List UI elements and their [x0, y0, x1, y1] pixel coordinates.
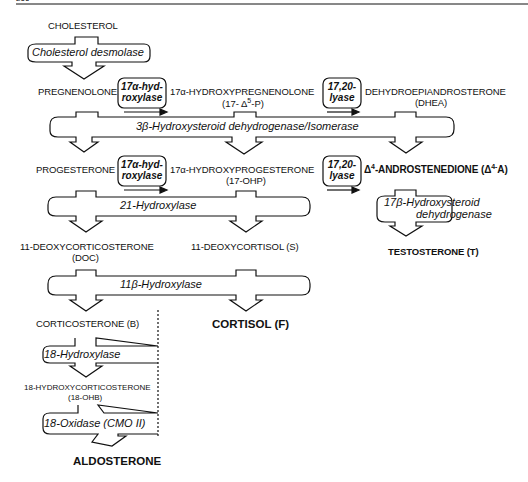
compound-corticosterone: CORTICOSTERONE (B): [36, 318, 139, 329]
enzyme-cholesterol-desmolase: Cholesterol desmolase: [32, 46, 144, 58]
compound-aldosterone: ALDOSTERONE: [73, 455, 161, 467]
compound-androstenedione: Δ4-ANDROSTENEDIONE (Δ4-A): [364, 163, 508, 175]
compound-17-hydroxypregnenolone: 17α-HYDROXYPREGNENOLONE: [170, 86, 314, 97]
enzyme-label: roxylase: [122, 92, 163, 103]
enzyme-21-hydroxylase: 21-Hydroxylase: [120, 199, 196, 211]
compound-17-ohp-abbr: (17-OHP): [226, 175, 266, 186]
compound-dhea: DEHYDROEPIANDROSTERONE: [365, 86, 506, 97]
enzyme-17-20-lyase-1: 17,20-lyase: [323, 81, 361, 103]
compound-17-hydroxypregnenolone-abbr: (17- Δ5-P): [222, 97, 264, 109]
compound-cortisol: CORTISOL (F): [212, 318, 289, 330]
enzyme-17a-hydroxylase-1: 17α-hyd-roxylase: [118, 81, 166, 103]
enzyme-17a-hydroxylase-2: 17α-hyd-roxylase: [118, 159, 166, 181]
compound-11-deoxycortisol: 11-DEOXYCORTISOL (S): [191, 241, 299, 252]
compound-cholesterol: CHOLESTEROL: [48, 20, 118, 31]
compound-doc-abbr: (DOC): [72, 252, 99, 263]
compound-18-hydroxycorticosterone: 18-HYDROXYCORTICOSTERONE: [24, 383, 151, 392]
compound-doc: 11-DEOXYCORTICOSTERONE: [20, 241, 154, 252]
enzyme-18-oxidase: 18-Oxidase (CMO II): [44, 417, 145, 429]
enzyme-17b-hsd: 17β-Hydroxysteroiddehydrogenase: [384, 196, 492, 220]
compound-pregnenolone: PREGNENOLONE: [38, 86, 117, 97]
compound-testosterone: TESTOSTERONE (T): [388, 246, 479, 257]
compound-progesterone: PROGESTERONE: [36, 164, 115, 175]
enzyme-3b-hsd: 3β-Hydroxysteroid dehydrogenase/Isomeras…: [136, 120, 359, 132]
enzyme-18-hydroxylase: 18-Hydroxylase: [44, 348, 120, 360]
enzyme-label: 17α-hyd-: [121, 81, 163, 92]
compound-dhea-abbr: (DHEA): [415, 97, 447, 108]
enzyme-11b-hydroxylase: 11β-Hydroxylase: [120, 278, 202, 290]
compound-18-ohb-abbr: (18-OHB): [68, 393, 102, 402]
compound-17-hydroxyprogesterone: 17α-HYDROXYPROGESTERONE: [170, 164, 314, 175]
enzyme-17-20-lyase-2: 17,20-lyase: [323, 159, 361, 181]
page-number: 266: [16, 0, 29, 3]
